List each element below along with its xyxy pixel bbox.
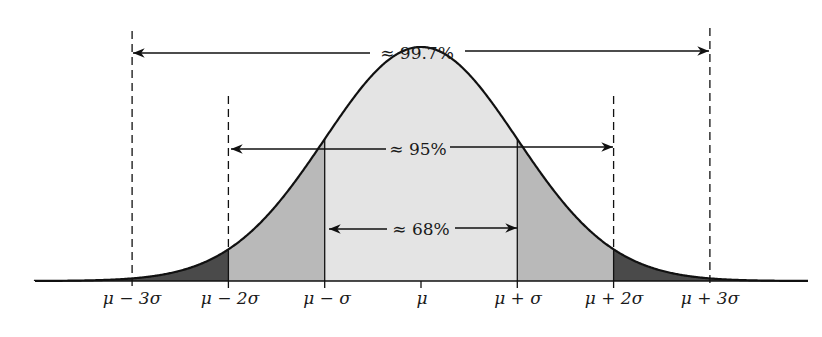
tick-label-mu: μ: [416, 288, 427, 308]
annotation-95: ≈ 95%: [231, 139, 613, 159]
annotation-label-68: ≈ 68%: [392, 219, 449, 239]
annotation-label-95: ≈ 95%: [389, 139, 446, 159]
annotation-99-7: ≈ 99.7%: [133, 43, 709, 63]
axis-labels: μ − 3σ μ − 2σ μ − σ μ μ + σ μ + 2σ μ + 3…: [103, 288, 740, 308]
tick-label-mu-plus-2sigma: μ + 2σ: [585, 288, 644, 308]
normal-distribution-diagram: ≈ 99.7% ≈ 95% ≈ 68% μ − 3σ μ − 2σ μ − σ …: [0, 0, 822, 337]
tick-label-mu-minus-sigma: μ − σ: [303, 288, 351, 308]
tick-label-mu-plus-sigma: μ + σ: [494, 288, 542, 308]
tick-label-mu-minus-2sigma: μ − 2σ: [201, 288, 260, 308]
tick-label-mu-plus-3sigma: μ + 3σ: [681, 288, 740, 308]
tick-label-mu-minus-3sigma: μ − 3σ: [103, 288, 162, 308]
annotation-label-99-7: ≈ 99.7%: [380, 43, 454, 63]
shaded-regions: [35, 47, 808, 281]
